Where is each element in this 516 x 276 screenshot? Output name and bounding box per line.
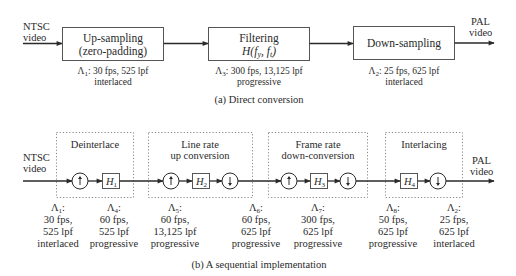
svg-text:525 lpf: 525 lpf — [99, 226, 130, 237]
output-label-video: video — [469, 27, 492, 38]
upsample-op-1 — [72, 173, 88, 189]
lattice-3-scan: progressive — [237, 77, 281, 87]
filter-h4: H4 — [401, 174, 418, 190]
lattice-label-4: Λ4: 60 fps, 525 lpf progressive — [90, 202, 139, 249]
filter-h3: H3 — [311, 174, 328, 190]
stage-title-interlacing: Interlacing — [401, 139, 447, 150]
lattice-label-1: Λ1: 30 fps, 525 lpf interlaced — [37, 202, 79, 249]
stage-title-frame-rate-2: down-conversion — [282, 150, 356, 161]
svg-text:progressive: progressive — [151, 238, 200, 249]
filtering-title: Filtering — [239, 32, 279, 45]
svg-text:625 lpf: 625 lpf — [303, 226, 334, 237]
lattice-label-2: Λ2: 25 fps, 625 lpf interlaced — [433, 202, 475, 249]
stage-title-frame-rate-1: Frame rate — [295, 139, 341, 150]
b-output-label-video: video — [470, 166, 493, 177]
upsampling-subtitle: (zero-padding) — [79, 45, 147, 58]
b-input-label-video: video — [23, 163, 46, 174]
svg-text:interlaced: interlaced — [37, 238, 79, 249]
filter-h2: H2 — [193, 174, 210, 190]
svg-text:625 lpf: 625 lpf — [241, 226, 272, 237]
svg-text:progressive: progressive — [232, 238, 281, 249]
upsample-op-3 — [281, 173, 297, 189]
svg-text:13,125 lpf: 13,125 lpf — [153, 226, 197, 237]
output-label-pal: PAL — [471, 16, 490, 27]
svg-text:25 fps,: 25 fps, — [440, 214, 469, 225]
svg-text:interlaced: interlaced — [433, 238, 475, 249]
b-input-label-ntsc: NTSC — [23, 152, 50, 163]
svg-text:50 fps,: 50 fps, — [379, 214, 408, 225]
lattice-label-5: Λ5: 60 fps, 13,125 lpf progressive — [151, 202, 200, 249]
upsampling-title: Up-sampling — [83, 32, 143, 45]
svg-text:progressive: progressive — [90, 238, 139, 249]
svg-text:625 lpf: 625 lpf — [439, 226, 470, 237]
svg-text:60 fps,: 60 fps, — [100, 214, 129, 225]
downsample-op-2 — [340, 173, 356, 189]
stage-title-deinterlace: Deinterlace — [71, 139, 120, 150]
downsampling-title: Down-sampling — [367, 37, 441, 50]
svg-text:525 lpf: 525 lpf — [43, 226, 74, 237]
lattice-2-scan: interlaced — [385, 77, 423, 87]
svg-text:300 fps,: 300 fps, — [301, 214, 335, 225]
stage-title-line-rate-2: up conversion — [170, 150, 230, 161]
lattice-label-6: Λ6: 60 fps, 625 lpf progressive — [232, 202, 281, 249]
input-label-video: video — [23, 32, 46, 43]
caption-b: (b) A sequential implementation — [191, 259, 327, 271]
part-b-sequential: Deinterlace Line rate up conversion Fram… — [23, 133, 494, 272]
lattice-label-8: Λ8: 50 fps, 625 lpf progressive — [369, 202, 418, 249]
upsample-op-2 — [163, 173, 179, 189]
lattice-label-7: Λ7: 300 fps, 625 lpf progressive — [294, 202, 343, 249]
input-label-ntsc: NTSC — [23, 21, 50, 32]
svg-text:60 fps,: 60 fps, — [161, 214, 190, 225]
stage-title-line-rate-1: Line rate — [181, 139, 219, 150]
caption-a: (a) Direct conversion — [214, 94, 304, 106]
filter-h1: H1 — [103, 174, 120, 190]
conversion-diagram: NTSC video Up-sampling (zero-padding) Λ1… — [0, 0, 516, 276]
svg-text:60 fps,: 60 fps, — [242, 214, 271, 225]
downsample-op-1 — [222, 173, 238, 189]
b-output-label-pal: PAL — [472, 155, 491, 166]
lattice-1-scan: interlaced — [94, 77, 132, 87]
svg-text:625 lpf: 625 lpf — [378, 226, 409, 237]
downsample-op-3 — [430, 173, 446, 189]
svg-text:progressive: progressive — [369, 238, 418, 249]
svg-text:30 fps,: 30 fps, — [44, 214, 73, 225]
svg-text:progressive: progressive — [294, 238, 343, 249]
part-a-direct-conversion: NTSC video Up-sampling (zero-padding) Λ1… — [23, 16, 494, 106]
